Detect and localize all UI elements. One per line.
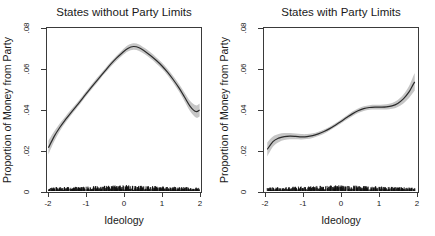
rug-points-right — [267, 185, 414, 191]
plot-area-left — [48, 43, 199, 191]
x-tick-label: -2 — [261, 199, 269, 208]
confidence-ribbon-left — [48, 43, 199, 154]
y-tick-label: 0 — [239, 189, 248, 194]
y-tick-labels-right: 0 .02 .04 .06 .08 — [239, 22, 248, 194]
y-tick-labels-left: 0 .02 .04 .06 .08 — [22, 22, 31, 194]
plot-area-right — [267, 73, 414, 191]
chart-panel-with-party-limits: States with Party Limits Ideology Propor… — [217, 0, 435, 236]
y-tick-label: .04 — [239, 104, 248, 116]
y-tick-label: .06 — [239, 63, 248, 75]
x-tick-label: 1 — [160, 199, 165, 208]
y-tick-label: .08 — [22, 22, 31, 34]
x-tick-label: 2 — [198, 199, 203, 208]
x-axis-title-right: Ideology — [321, 214, 361, 226]
chart-panel-without-party-limits: States without Party Limits Ideology Pro… — [0, 0, 218, 236]
panel-title-right: States with Party Limits — [281, 6, 401, 18]
x-tick-label: 0 — [339, 199, 344, 208]
x-tick-label: 0 — [122, 199, 127, 208]
chart-svg-right: States with Party Limits Ideology Propor… — [217, 0, 435, 236]
x-tick-label: -2 — [44, 199, 52, 208]
y-tick-label: .08 — [239, 22, 248, 34]
y-axis-title-right: Proportion of Money from Party — [218, 36, 230, 183]
y-tick-label: .04 — [22, 104, 31, 116]
x-tick-labels-left: -2 -1 0 1 2 — [44, 199, 202, 208]
y-tick-label: .02 — [22, 145, 31, 157]
y-tick-label: 0 — [22, 189, 31, 194]
confidence-ribbon-right — [267, 73, 414, 156]
fit-line-left — [48, 47, 199, 148]
panel-title-left: States without Party Limits — [56, 6, 192, 18]
x-axis-title-left: Ideology — [104, 214, 144, 226]
y-tickmarks-right — [258, 28, 263, 192]
x-tick-label: -1 — [82, 199, 90, 208]
chart-svg-left: States without Party Limits Ideology Pro… — [0, 0, 218, 236]
x-tick-label: -1 — [299, 199, 307, 208]
y-tick-label: .06 — [22, 63, 31, 75]
y-tick-label: .02 — [239, 145, 248, 157]
x-tick-label: 1 — [377, 199, 382, 208]
y-axis-title-left: Proportion of Money from Party — [1, 36, 13, 183]
x-tick-label: 2 — [415, 199, 420, 208]
rug-points-left — [49, 185, 200, 191]
y-tickmarks-left — [41, 28, 46, 192]
figure-container: States without Party Limits Ideology Pro… — [0, 0, 435, 236]
plot-frame-right — [264, 28, 419, 193]
x-tick-labels-right: -2 -1 0 1 2 — [261, 199, 419, 208]
